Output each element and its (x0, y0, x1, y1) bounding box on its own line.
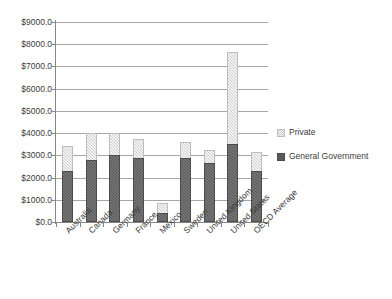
y-axis-tick-label: $6000.0 (0, 85, 52, 94)
grid-line (56, 44, 268, 45)
legend-swatch-icon (277, 129, 285, 137)
y-axis-tick (51, 178, 56, 179)
bar-segment-private[interactable] (251, 152, 262, 171)
y-axis-tick (51, 22, 56, 23)
y-axis-tick (51, 111, 56, 112)
x-axis-tick (56, 222, 57, 227)
bar-segment-private[interactable] (204, 150, 215, 163)
chart-legend: PrivateGeneral Government (277, 128, 368, 176)
x-axis-tick (103, 222, 104, 227)
bar-segment-private[interactable] (180, 142, 191, 158)
y-axis-line (55, 20, 56, 224)
legend-item-label: Private (289, 128, 315, 137)
bar-segment-private[interactable] (157, 203, 168, 213)
legend-item-label: General Government (289, 152, 368, 161)
x-axis-tick (127, 222, 128, 227)
bar-segment-general-government[interactable] (180, 158, 191, 222)
x-axis-tick (244, 222, 245, 227)
y-axis-tick-label: $8000.0 (0, 40, 52, 49)
y-axis-tick (51, 133, 56, 134)
x-axis-tick (174, 222, 175, 227)
plot-area (56, 22, 268, 222)
bar-segment-private[interactable] (62, 146, 73, 170)
bar-segment-private[interactable] (227, 52, 238, 144)
x-axis-tick (150, 222, 151, 227)
bar-segment-private[interactable] (109, 133, 120, 155)
y-axis-tick (51, 66, 56, 67)
legend-swatch-icon (277, 153, 285, 161)
y-axis-tick-label: $0.0 (0, 218, 52, 227)
grid-line (56, 22, 268, 23)
y-axis-tick (51, 44, 56, 45)
y-axis-tick-label: $9000.0 (0, 18, 52, 27)
bar-segment-private[interactable] (133, 139, 144, 158)
bar-stack[interactable] (109, 133, 120, 222)
y-axis-tick-label: $7000.0 (0, 62, 52, 71)
y-axis-tick-label: $5000.0 (0, 107, 52, 116)
bar-stack[interactable] (180, 142, 191, 222)
bar-segment-general-government[interactable] (62, 171, 73, 222)
legend-item-gov[interactable]: General Government (277, 152, 368, 161)
y-axis-tick-label: $1000.0 (0, 196, 52, 205)
x-axis-tick (80, 222, 81, 227)
bar-segment-private[interactable] (86, 133, 97, 160)
y-axis-tick-label: $4000.0 (0, 129, 52, 138)
y-axis-tick (51, 200, 56, 201)
y-axis-tick-label: $2000.0 (0, 174, 52, 183)
stacked-bar-chart: $0.0$1000.0$2000.0$3000.0$4000.0$5000.0$… (0, 0, 392, 299)
bar-stack[interactable] (62, 146, 73, 222)
x-axis-tick (197, 222, 198, 227)
y-axis-tick (51, 155, 56, 156)
x-axis-tick (221, 222, 222, 227)
y-axis-tick-label: $3000.0 (0, 151, 52, 160)
x-axis-tick (268, 222, 269, 227)
legend-item-private[interactable]: Private (277, 128, 368, 137)
y-axis-tick (51, 89, 56, 90)
